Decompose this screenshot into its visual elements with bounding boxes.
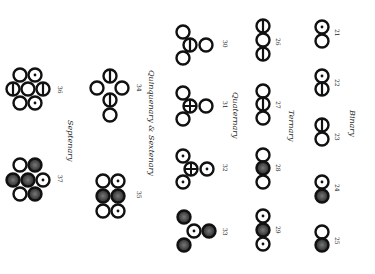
figure-29: 29 (257, 210, 283, 251)
group-label-quinquenary-sextenary: Quinquenary & Sextenary (147, 70, 156, 176)
figure-number: 21 (334, 29, 341, 37)
figure-number: 24 (334, 184, 341, 192)
figure-number: 31 (222, 101, 229, 109)
figure-number: 36 (57, 86, 64, 94)
group-label-binary: Binary (348, 109, 357, 137)
figure-35: 35 (97, 175, 144, 218)
figure-number: 33 (222, 228, 229, 236)
figure-number: 37 (57, 175, 64, 183)
group-label-septenary: Septenary (66, 120, 75, 162)
group-label-quaternary: Quaternary (231, 92, 240, 139)
figure-22: 22 (316, 70, 342, 96)
figure-number: 26 (275, 38, 282, 46)
figure-24: 24 (316, 176, 342, 203)
figure-number: 22 (334, 79, 341, 87)
figure-number: 25 (334, 237, 341, 245)
figure-number: 27 (275, 101, 282, 109)
figure-32: 32 (177, 150, 230, 189)
figure-37: 37 (7, 159, 65, 201)
figure-number: 32 (222, 164, 229, 172)
figure-27: 27 (257, 85, 283, 125)
figure-number: 35 (136, 191, 143, 199)
figure-28: 28 (257, 149, 283, 189)
figure-25: 25 (316, 226, 342, 252)
figure-number: 23 (334, 133, 341, 141)
figure-26: 26 (257, 20, 283, 61)
figure-number: 28 (275, 164, 282, 172)
figure-21: 21 (316, 21, 342, 48)
compound-atoms-plate: Binary Ternary Quaternary Quinquenary & … (0, 0, 375, 274)
figure-36: 36 (7, 69, 65, 110)
figure-number: 29 (275, 226, 282, 234)
figure-33: 33 (178, 211, 230, 252)
figure-23: 23 (316, 119, 342, 146)
figure-31: 31 (177, 87, 230, 126)
figure-number: 34 (136, 84, 143, 92)
group-label-ternary: Ternary (287, 110, 296, 142)
figure-34: 34 (91, 70, 144, 122)
figure-30: 30 (177, 26, 230, 65)
figure-number: 30 (222, 40, 229, 48)
